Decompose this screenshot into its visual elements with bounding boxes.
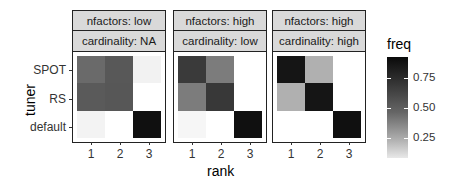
heatmap-cell [277, 56, 305, 83]
heatmap-cell [105, 56, 133, 83]
x-label: 2 [211, 147, 231, 161]
legend-label-025: 0.25 [413, 131, 435, 143]
x-tick [91, 142, 92, 145]
heatmap-cell [234, 56, 262, 83]
heatmap-cell [206, 111, 234, 138]
x-label: 1 [81, 147, 101, 161]
legend-colorbar [387, 57, 408, 158]
x-label: 3 [139, 147, 159, 161]
heatmap-cell [206, 83, 234, 110]
y-label-rs: RS [49, 92, 66, 106]
legend-title: freq [387, 36, 411, 52]
x-tick [320, 142, 321, 145]
heatmap-cell [178, 56, 206, 83]
heatmap-cell [133, 56, 161, 83]
x-tick [221, 142, 222, 145]
heatmap-cell [234, 111, 262, 138]
facet-panel-1: nfactors: lowcardinality: NA123 [72, 10, 166, 143]
heatmap-plot: 123 [272, 52, 366, 143]
legend-label-050: 0.50 [413, 101, 435, 113]
heatmap-plot: 123 [173, 52, 267, 143]
x-label: 1 [182, 147, 202, 161]
y-axis-title: tuner [22, 80, 38, 120]
heatmap-cell [77, 56, 105, 83]
x-tick [250, 142, 251, 145]
heatmap-cell [333, 83, 361, 110]
heatmap-cell [277, 111, 305, 138]
x-tick [120, 142, 121, 145]
x-label: 2 [110, 147, 130, 161]
heatmap-cell [133, 83, 161, 110]
x-label: 3 [339, 147, 359, 161]
heatmap-cell [178, 83, 206, 110]
facet-strip-cardinality: cardinality: NA [72, 31, 166, 52]
heatmap-cell [277, 83, 305, 110]
heatmap-cell [305, 56, 333, 83]
facet-strip-cardinality: cardinality: high [272, 31, 366, 52]
x-label: 1 [281, 147, 301, 161]
x-tick [291, 142, 292, 145]
x-label: 2 [310, 147, 330, 161]
facet-panel-3: nfactors: highcardinality: high123 [272, 10, 366, 143]
heatmap-plot: 123 [72, 52, 166, 143]
facet-strip-nfactors: nfactors: high [173, 10, 267, 31]
heatmap-cell [77, 83, 105, 110]
y-label-spot: SPOT [33, 63, 66, 77]
heatmap-cell [105, 83, 133, 110]
legend-label-075: 0.75 [413, 71, 435, 83]
heatmap-cell [333, 111, 361, 138]
x-axis-title: rank [207, 163, 234, 179]
heatmap-cell [133, 111, 161, 138]
heatmap-cell [305, 83, 333, 110]
heatmap-cell [77, 111, 105, 138]
facet-strip-cardinality: cardinality: low [173, 31, 267, 52]
y-label-default: default [30, 120, 66, 134]
heatmap-cell [333, 56, 361, 83]
facet-strip-nfactors: nfactors: high [272, 10, 366, 31]
x-tick [192, 142, 193, 145]
heatmap-cell [206, 56, 234, 83]
heatmap-cell [234, 83, 262, 110]
facet-panel-2: nfactors: highcardinality: low123 [173, 10, 267, 143]
facet-strip-nfactors: nfactors: low [72, 10, 166, 31]
heatmap-cell [305, 111, 333, 138]
heatmap-cell [178, 111, 206, 138]
x-tick [349, 142, 350, 145]
heatmap-cell [105, 111, 133, 138]
x-tick [149, 142, 150, 145]
x-label: 3 [240, 147, 260, 161]
